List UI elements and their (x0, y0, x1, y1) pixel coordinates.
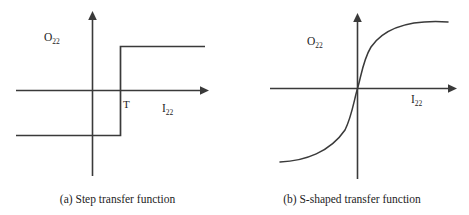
y-axis-label-output-subscript: 22 (52, 37, 59, 46)
x-axis-arrowhead-icon (448, 84, 457, 93)
y-axis-label-output: O22 (307, 36, 323, 48)
y-axis-group (353, 13, 362, 179)
y-axis-arrowhead-icon (353, 13, 362, 22)
y-axis-arrowhead-icon (88, 11, 97, 20)
threshold-label: T (123, 99, 130, 110)
x-axis-label-input-subscript: 22 (415, 99, 422, 108)
x-axis-label-input: I22 (162, 103, 173, 115)
panel-caption-b: (b) S-shaped transfer function (235, 193, 469, 205)
y-axis-group (88, 11, 97, 176)
x-axis-group (16, 86, 209, 95)
s-shaped-function-plot (235, 0, 469, 215)
x-axis-group (270, 84, 457, 93)
panel-caption-a: (a) Step transfer function (0, 193, 235, 205)
y-axis-label-output: O22 (44, 32, 60, 44)
step-function-plot (0, 0, 235, 215)
y-axis-label-output-subscript: 22 (315, 41, 322, 50)
s-shaped-curve (280, 22, 448, 162)
figure-container: O22 T I22 (a) Step transfer function O22… (0, 0, 469, 215)
x-axis-arrowhead-icon (200, 86, 209, 95)
x-axis-label-input-subscript: 22 (166, 108, 173, 117)
panel-step-transfer-function: O22 T I22 (a) Step transfer function (0, 0, 235, 215)
x-axis-label-input: I22 (411, 94, 422, 106)
panel-s-shaped-transfer-function: O22 I22 (b) S-shaped transfer function (235, 0, 469, 215)
